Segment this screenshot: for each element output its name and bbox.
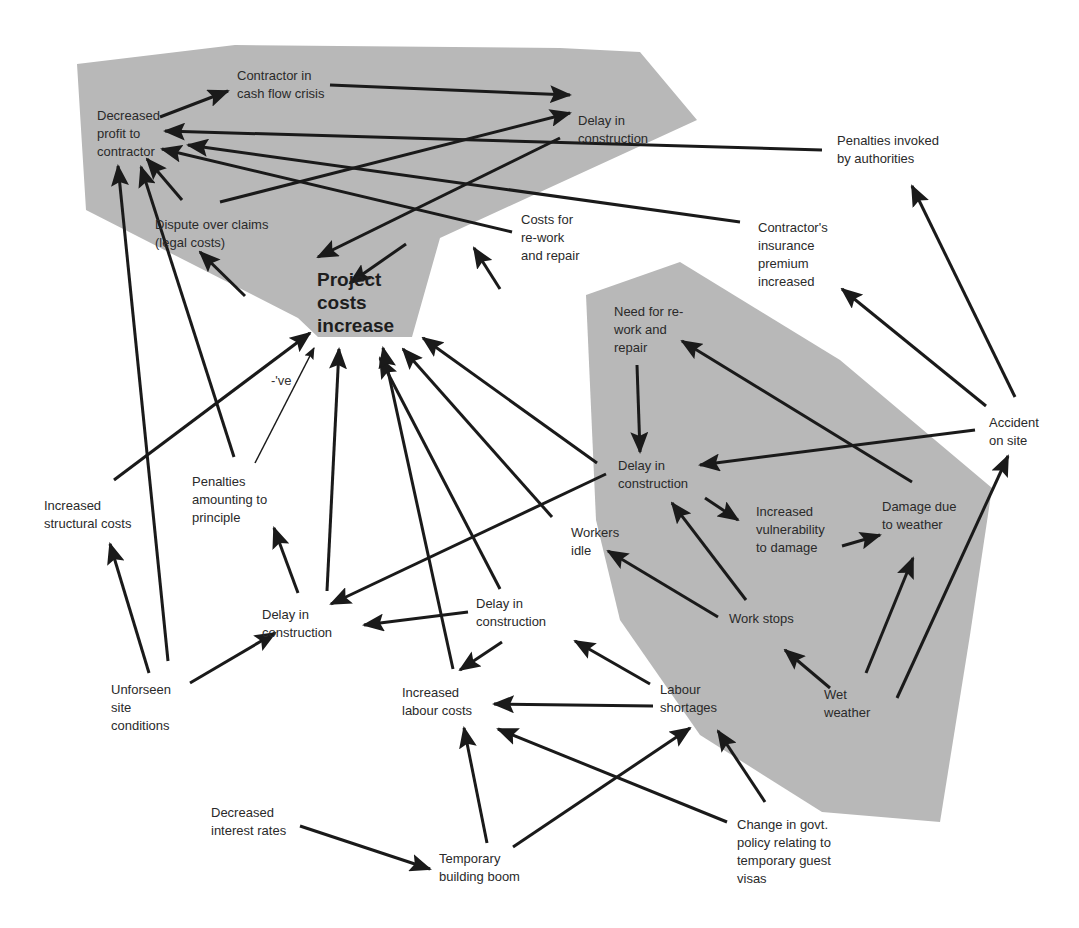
node-cash-flow-crisis: Contractor in cash flow crisis (237, 67, 324, 103)
arrow-decreased-interest-to-building-boom (300, 826, 430, 869)
causal-loop-diagram: Decreased profit to contractorContractor… (0, 0, 1079, 928)
node-need-rework: Need for re- work and repair (614, 303, 683, 357)
arrow-need-rework-to-costs-rework (474, 248, 500, 289)
node-delay-mid: Delay in construction (476, 595, 546, 631)
node-penalties-principle: Penalties amounting to principle (192, 473, 267, 527)
arrow-delay-mid-to-increased-labour (460, 642, 502, 670)
arrow-labour-shortages-to-increased-labour (494, 704, 653, 706)
node-project-costs: Project costs increase (317, 268, 394, 337)
node-damage-weather: Damage due to weather (882, 498, 956, 534)
arrow-delay-mid-to-delay-left (364, 612, 468, 625)
node-work-stops: Work stops (729, 610, 794, 628)
node-accident-site: Accident on site (989, 414, 1039, 450)
arrow-delay-left-to-project-costs (327, 349, 339, 591)
node-unforseen-site: Unforseen site conditions (111, 681, 171, 735)
arrow-building-boom-to-increased-labour (464, 728, 487, 843)
arrow-delay-right-to-delay-left (331, 474, 606, 604)
node-delay-top: Delay in construction (578, 112, 648, 148)
node-decreased-profit: Decreased profit to contractor (97, 107, 160, 161)
node-increased-labour: Increased labour costs (402, 684, 472, 720)
node-dispute-claims: Dispute over claims (legal costs) (155, 216, 268, 252)
node-ve-note: -'ve (271, 372, 292, 390)
arrow-govt-policy-to-increased-labour (498, 729, 727, 822)
arrow-accident-site-to-penalties-authorities (912, 186, 1015, 397)
node-penalties-authorities: Penalties invoked by authorities (837, 132, 939, 168)
node-increased-structural: Increased structural costs (44, 497, 131, 533)
node-delay-left: Delay in construction (262, 606, 332, 642)
node-building-boom: Temporary building boom (439, 850, 520, 886)
arrow-unforseen-site-to-increased-structural (110, 544, 149, 673)
arrow-workers-idle-to-project-costs (403, 349, 552, 517)
node-workers-idle: Workers idle (571, 524, 619, 560)
node-delay-right: Delay in construction (618, 457, 688, 493)
node-increased-vulnerability: Increased vulnerability to damage (756, 503, 825, 557)
arrow-delay-left-to-penalties-principle (274, 528, 298, 593)
node-wet-weather: Wet weather (824, 686, 870, 722)
node-decreased-interest: Decreased interest rates (211, 804, 286, 840)
node-govt-policy: Change in govt. policy relating to tempo… (737, 816, 831, 888)
node-costs-rework: Costs for re-work and repair (521, 211, 580, 265)
arrow-penalties-principle-to-project-costs (255, 348, 314, 463)
node-insurance-premium: Contractor's insurance premium increased (758, 219, 828, 291)
arrow-labour-shortages-to-delay-mid (575, 641, 650, 684)
node-labour-shortages: Labour shortages (660, 681, 717, 717)
